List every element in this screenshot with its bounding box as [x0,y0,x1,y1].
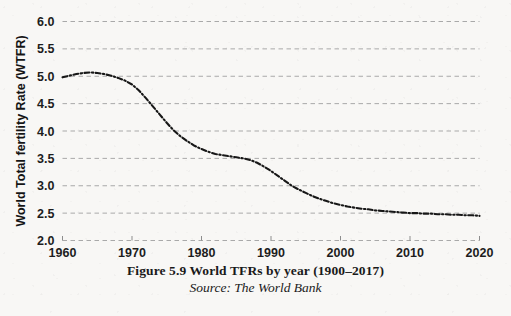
data-series-line [63,72,480,215]
x-axis-tick-label: 1980 [188,246,216,260]
y-axis-tick-label: 4.5 [37,97,54,111]
y-axis-tick-label: 2.5 [37,207,54,221]
x-axis-tick-label: 2010 [396,246,424,260]
x-axis-tick-label: 1990 [257,246,285,260]
figure-page: 2.02.53.03.54.04.55.05.56.01960197019801… [0,0,511,316]
y-axis-tick-label: 3.0 [37,179,54,193]
y-axis-title: World Total fertility Rate (WTFR) [14,35,28,226]
x-axis-tick-label: 1960 [49,246,77,260]
x-axis-tick-label: 2000 [327,246,355,260]
y-axis-tick-label: 5.0 [37,70,54,84]
figure-caption: Figure 5.9 World TFRs by year (1900–2017… [0,262,511,279]
y-axis-tick-label: 4.0 [37,125,54,139]
figure-source: Source: The World Bank [0,279,511,297]
y-axis-tick-label: 6.0 [37,15,54,29]
x-axis-tick-label: 2020 [466,246,494,260]
x-axis-tick-label: 1970 [118,246,146,260]
y-axis-tick-label: 3.5 [37,152,54,166]
caption-block: Figure 5.9 World TFRs by year (1900–2017… [0,262,511,297]
y-axis-tick-label: 5.5 [37,42,54,56]
